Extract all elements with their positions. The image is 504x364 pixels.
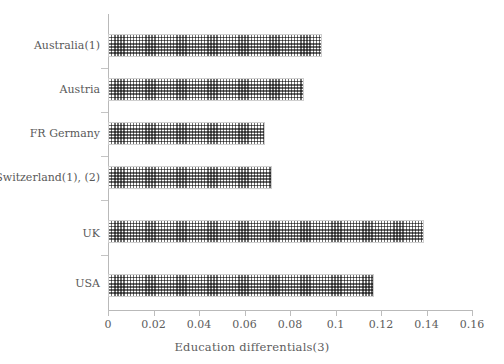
- y-axis-label-switzerland: Switzerland(1), (2): [0, 172, 100, 184]
- y-axis-label-austria: Austria: [60, 84, 100, 96]
- x-axis-tick-label: 0.14: [414, 318, 439, 331]
- bar-switzerland: [108, 166, 272, 189]
- x-axis-tick-label: 0.12: [369, 318, 394, 331]
- x-axis-title: Education differentials(3): [0, 340, 504, 354]
- x-axis-tick: [154, 310, 155, 316]
- y-axis-label-uk: UK: [83, 228, 101, 240]
- x-axis-tick-label: 0.02: [141, 318, 166, 331]
- y-axis-tick: [101, 112, 108, 113]
- x-axis-tick: [245, 310, 246, 316]
- x-axis-tick: [108, 310, 109, 316]
- bar-austria: [108, 78, 304, 101]
- x-axis-tick-label: 0.08: [278, 318, 303, 331]
- x-axis-tick: [336, 310, 337, 316]
- y-axis-tick: [101, 200, 108, 201]
- x-axis-tick-label: 0.1: [327, 318, 345, 331]
- x-axis-tick-label: 0.06: [232, 318, 257, 331]
- x-axis-tick-label: 0.04: [187, 318, 212, 331]
- x-axis-tick: [199, 310, 200, 316]
- bar-chart: Australia(1) Austria FR Germany Switzerl…: [0, 0, 504, 364]
- y-axis-tick: [101, 156, 108, 157]
- x-axis-tick-label: 0: [105, 318, 112, 331]
- bar-australia: [108, 34, 322, 57]
- y-axis-tick: [101, 255, 108, 256]
- bar-uk: [108, 220, 424, 243]
- x-axis-tick: [290, 310, 291, 316]
- y-axis-label-fr-germany: FR Germany: [30, 128, 100, 140]
- bar-fr-germany: [108, 122, 265, 145]
- y-axis-label-usa: USA: [75, 278, 100, 290]
- plot-area: [108, 14, 472, 310]
- bar-usa: [108, 274, 374, 297]
- x-axis-tick: [381, 310, 382, 316]
- y-axis-label-australia: Australia(1): [34, 40, 100, 52]
- x-axis-tick: [427, 310, 428, 316]
- x-axis-tick-label: 0.16: [460, 318, 485, 331]
- y-axis-tick: [101, 68, 108, 69]
- x-axis-tick: [472, 310, 473, 316]
